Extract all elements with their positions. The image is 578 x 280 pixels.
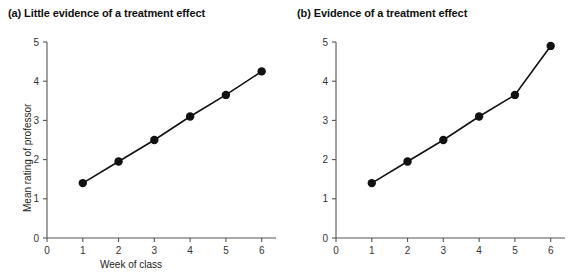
series-data-point	[511, 91, 519, 99]
series-data-point	[114, 157, 122, 165]
y-tick-label: 3	[322, 115, 328, 126]
y-tick-label: 2	[33, 154, 39, 165]
x-tick-label: 2	[405, 245, 411, 256]
x-tick-label: 5	[223, 245, 229, 256]
series-data-point	[150, 136, 158, 144]
series-data-point	[186, 112, 194, 120]
series-data-point	[546, 42, 554, 50]
y-tick-label: 0	[33, 233, 39, 244]
panel-a-plot-area: 0123450123456	[0, 0, 289, 280]
series-data-point	[222, 91, 230, 99]
series-data-point	[439, 136, 447, 144]
y-tick-label: 4	[33, 76, 39, 87]
series-line	[372, 46, 551, 183]
two-panel-line-chart-figure: (a) Little evidence of a treatment effec…	[0, 0, 578, 280]
x-tick-label: 3	[152, 245, 158, 256]
y-tick-label: 1	[33, 193, 39, 204]
panel-b-plot-area: 0123450123456	[289, 0, 578, 280]
series-data-point	[403, 157, 411, 165]
y-tick-label: 5	[322, 37, 328, 48]
y-tick-label: 1	[322, 193, 328, 204]
series-data-point	[368, 179, 376, 187]
series-line	[83, 71, 262, 183]
chart-panel-a: (a) Little evidence of a treatment effec…	[0, 0, 289, 280]
y-tick-label: 2	[322, 154, 328, 165]
y-tick-label: 5	[33, 37, 39, 48]
series-data-point	[475, 112, 483, 120]
chart-panel-b: (b) Evidence of a treatment effect 01234…	[289, 0, 578, 280]
x-tick-label: 1	[80, 245, 86, 256]
series-data-point	[79, 179, 87, 187]
y-tick-label: 0	[322, 233, 328, 244]
x-tick-label: 0	[333, 245, 339, 256]
series-data-point	[257, 67, 265, 75]
x-tick-label: 3	[441, 245, 447, 256]
x-tick-label: 4	[187, 245, 193, 256]
x-tick-label: 5	[512, 245, 518, 256]
y-tick-label: 4	[322, 76, 328, 87]
x-tick-label: 1	[369, 245, 375, 256]
y-tick-label: 3	[33, 115, 39, 126]
x-tick-label: 6	[259, 245, 265, 256]
panel-a-y-axis-label: Mean rating of professor	[22, 104, 33, 212]
x-tick-label: 6	[548, 245, 554, 256]
x-tick-label: 0	[44, 245, 50, 256]
x-tick-label: 4	[476, 245, 482, 256]
x-tick-label: 2	[116, 245, 122, 256]
panel-a-x-axis-label: Week of class	[100, 259, 162, 270]
